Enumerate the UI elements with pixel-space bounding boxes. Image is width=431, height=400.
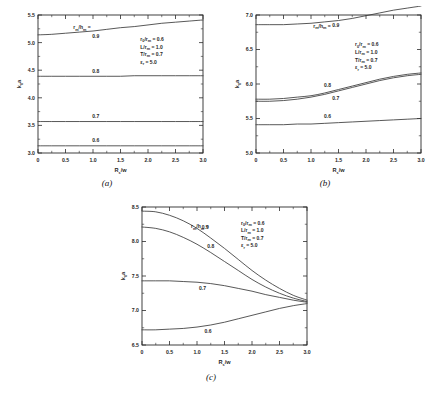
svg-text:3.5: 3.5	[28, 122, 35, 128]
curve-label-b-0.7: 0.7	[332, 95, 339, 101]
y-axis-title-b: k0a	[234, 79, 242, 88]
param-b-1: L/rm = 1.0	[355, 49, 378, 56]
panel-c-plot: 00.51.01.52.02.53.06.57.07.58.08.50.90.8…	[108, 198, 314, 374]
svg-text:1.5: 1.5	[221, 349, 228, 355]
panel-a-plot: 00.51.01.52.02.53.03.03.54.04.55.05.50.9…	[4, 6, 210, 182]
param-c-1: L/rm = 1.0	[241, 227, 264, 234]
param-a-3: εr = 5.0	[140, 59, 157, 66]
svg-text:0.5: 0.5	[62, 157, 69, 163]
curve-label-a-0.7: 0.7	[92, 113, 99, 119]
svg-text:3.0: 3.0	[199, 157, 206, 163]
param-b-2: T/rm = 0.7	[355, 57, 378, 64]
svg-text:4.5: 4.5	[28, 67, 35, 73]
svg-text:5.0: 5.0	[246, 150, 253, 156]
svg-text:7.5: 7.5	[132, 273, 139, 279]
svg-text:0: 0	[141, 349, 144, 355]
panel-a-caption: (a)	[4, 178, 210, 188]
svg-text:2.5: 2.5	[172, 157, 179, 163]
svg-text:8.5: 8.5	[132, 204, 139, 210]
svg-text:0.5: 0.5	[166, 349, 173, 355]
legend-key-b: rm/hm =	[313, 23, 331, 30]
panel-a: 00.51.01.52.02.53.03.03.54.04.55.05.50.9…	[4, 6, 210, 196]
svg-text:6.5: 6.5	[246, 46, 253, 52]
figure-container: 00.51.01.52.02.53.03.03.54.04.55.05.50.9…	[0, 0, 431, 400]
curve-label-a-0.9: 0.9	[92, 33, 99, 39]
svg-text:0.5: 0.5	[280, 157, 287, 163]
panel-b: 00.51.01.52.02.53.05.05.56.06.57.00.90.8…	[222, 6, 428, 196]
svg-text:8.0: 8.0	[132, 238, 139, 244]
curve-label-a-0.6: 0.6	[92, 137, 99, 143]
svg-text:4.0: 4.0	[28, 95, 35, 101]
svg-text:0: 0	[37, 157, 40, 163]
svg-text:1.0: 1.0	[89, 157, 96, 163]
y-axis-title-c: k0a	[120, 271, 128, 280]
svg-text:1.0: 1.0	[307, 157, 314, 163]
svg-text:0: 0	[255, 157, 258, 163]
svg-text:1.0: 1.0	[193, 349, 200, 355]
svg-text:2.5: 2.5	[276, 349, 283, 355]
curve-a-0.9	[38, 20, 203, 35]
curve-label-c-0.8: 0.8	[207, 243, 214, 249]
y-axis-title-a: k0a	[16, 79, 24, 88]
svg-text:7.0: 7.0	[132, 307, 139, 313]
x-axis-title-c: Rs/w	[218, 359, 231, 367]
svg-text:5.5: 5.5	[28, 12, 35, 18]
x-axis-title-a: Rs/w	[114, 167, 127, 175]
curve-a-0.8	[38, 76, 203, 77]
legend-key-a: rm/hm =	[73, 24, 91, 31]
svg-text:5.5: 5.5	[246, 115, 253, 121]
param-b-0: r0/rm = 0.6	[355, 41, 379, 48]
svg-text:5.0: 5.0	[28, 40, 35, 46]
panel-c-caption: (c)	[108, 372, 314, 382]
curve-c-0.7	[142, 281, 307, 302]
param-c-2: T/rm = 0.7	[241, 235, 264, 242]
svg-text:2.5: 2.5	[390, 157, 397, 163]
param-c-3: εr = 5.0	[241, 242, 258, 249]
curve-c-0.9	[142, 211, 307, 300]
svg-text:6.0: 6.0	[246, 81, 253, 87]
param-b-3: εr = 5.0	[355, 64, 372, 71]
svg-text:1.5: 1.5	[335, 157, 342, 163]
param-a-1: L/rm = 1.0	[140, 44, 163, 51]
curve-label-b-0.9: 0.9	[332, 22, 339, 28]
curve-label-a-0.8: 0.8	[92, 68, 99, 74]
svg-text:3.0: 3.0	[28, 150, 35, 156]
svg-text:2.0: 2.0	[248, 349, 255, 355]
svg-text:2.0: 2.0	[144, 157, 151, 163]
svg-text:6.5: 6.5	[132, 342, 139, 348]
panel-c: 00.51.01.52.02.53.06.57.07.58.08.50.90.8…	[108, 198, 314, 394]
curve-label-b-0.6: 0.6	[324, 113, 331, 119]
curve-b-0.6	[256, 119, 421, 125]
param-c-0: r0/rm = 0.6	[241, 220, 265, 227]
curve-label-c-0.6: 0.6	[205, 328, 212, 334]
svg-text:3.0: 3.0	[417, 157, 424, 163]
curve-c-0.6	[142, 304, 307, 330]
param-a-0: r0/rm = 0.6	[140, 36, 164, 43]
panel-b-plot: 00.51.01.52.02.53.05.05.56.06.57.00.90.8…	[222, 6, 428, 182]
svg-text:7.0: 7.0	[246, 12, 253, 18]
panel-b-caption: (b)	[222, 178, 428, 188]
curve-label-c-0.7: 0.7	[199, 285, 206, 291]
svg-text:1.5: 1.5	[117, 157, 124, 163]
curve-label-b-0.8: 0.8	[324, 82, 331, 88]
svg-text:3.0: 3.0	[303, 349, 310, 355]
x-axis-title-b: Rs/w	[332, 167, 345, 175]
svg-text:2.0: 2.0	[362, 157, 369, 163]
param-a-2: T/rm = 0.7	[140, 51, 163, 58]
